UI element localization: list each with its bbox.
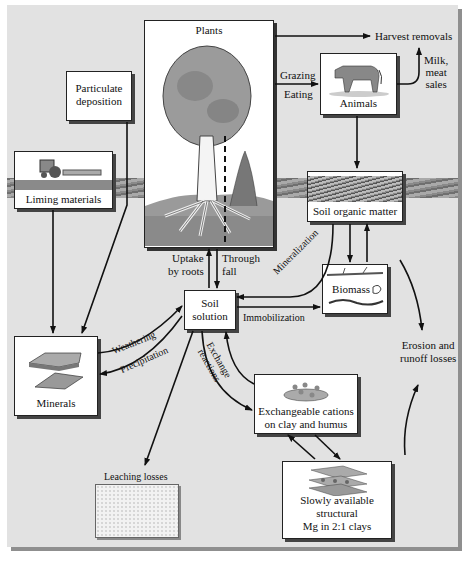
flow-arrows <box>0 0 467 561</box>
eating-label: Eating <box>284 88 313 101</box>
milk-line2: meat <box>424 66 448 78</box>
throughfall-line1: Through <box>222 252 260 265</box>
throughfall-label: Through fall <box>222 252 260 278</box>
grazing-label: Grazing <box>280 69 315 82</box>
uptake-line2: by roots <box>168 265 204 278</box>
immobilization-label: Immobilization <box>243 311 305 324</box>
uptake-line1: Uptake <box>168 252 204 265</box>
harvest-removals-label: Harvest removals <box>375 30 452 43</box>
milk-meat-sales-label: Milk, meat sales <box>424 54 448 90</box>
throughfall-line2: fall <box>222 265 260 278</box>
milk-line3: sales <box>424 78 448 90</box>
uptake-by-roots-label: Uptake by roots <box>168 252 204 278</box>
erosion-runoff-label: Erosion and runoff losses <box>400 339 456 365</box>
erosion-line1: Erosion and <box>400 339 456 352</box>
milk-line1: Milk, <box>424 54 448 66</box>
erosion-line2: runoff losses <box>400 352 456 365</box>
